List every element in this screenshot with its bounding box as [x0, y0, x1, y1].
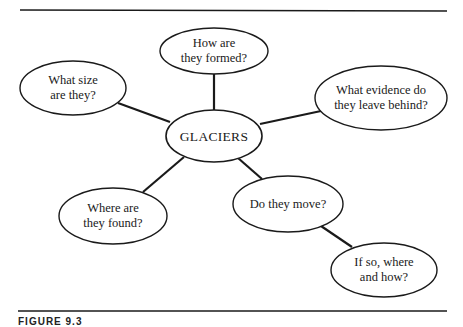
- connector-found: [143, 157, 184, 192]
- node-formed: How are they formed?: [160, 28, 268, 74]
- node-move: Do they move?: [233, 176, 343, 232]
- node-found: Where are they found?: [59, 188, 167, 244]
- figure-caption: FIGURE 9.3: [18, 316, 82, 327]
- node-where-how: If so, where and how?: [331, 243, 437, 297]
- top-rule: [20, 10, 447, 11]
- center-node-glaciers: GLACIERS: [166, 110, 262, 162]
- node-size: What size are they?: [20, 61, 126, 115]
- connector-evidence: [260, 111, 321, 124]
- node-evidence: What evidence do they leave behind?: [315, 66, 447, 130]
